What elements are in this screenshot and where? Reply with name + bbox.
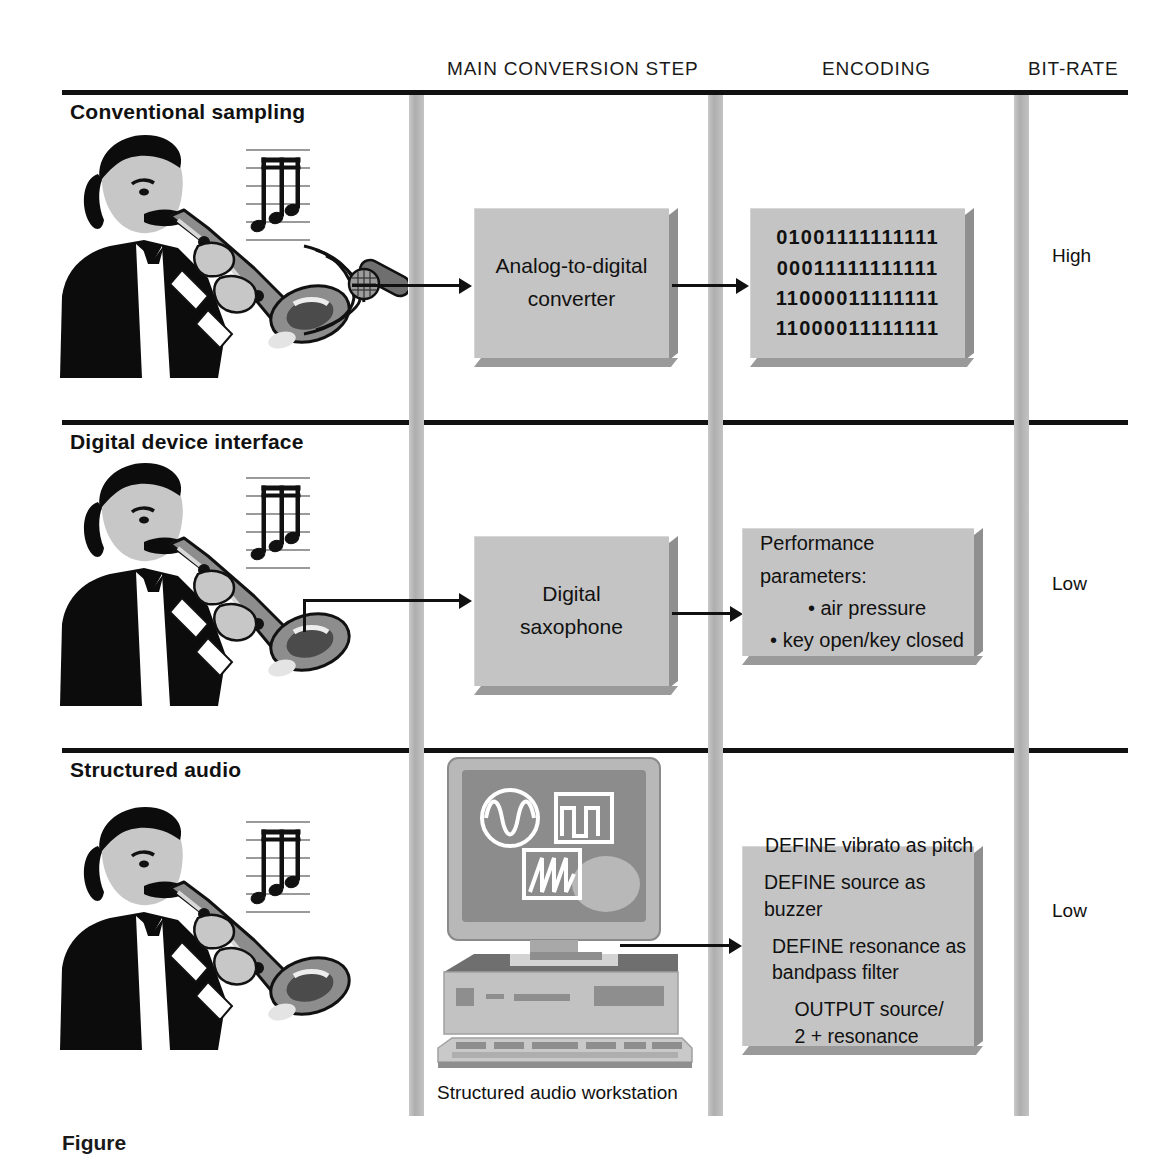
- binary-line: 00011111111111: [777, 253, 939, 283]
- box-line: converter: [528, 283, 616, 316]
- code-line: DEFINE source as buzzer: [764, 869, 974, 922]
- box-content: Analog-to-digital converter: [474, 208, 669, 358]
- box-side-shadow: [965, 208, 974, 360]
- arrow-row2-source-to-box: [303, 599, 463, 602]
- row-title-structured-audio: Structured audio: [70, 758, 241, 782]
- column-header-encoding: ENCODING: [822, 58, 931, 80]
- box-content: 01001111111111 00011111111111 1100001111…: [750, 208, 965, 358]
- box-line: Analog-to-digital: [496, 250, 648, 283]
- box-performance-parameters: Performance parameters: • air pressure •…: [742, 528, 974, 656]
- arrow-row1-box-to-encoding: [672, 284, 739, 287]
- arrow-row2-box-to-encoding: [672, 612, 734, 615]
- arrow-head-row2-source-to-box: [459, 593, 472, 609]
- box-digital-saxophone: Digital saxophone: [474, 536, 669, 686]
- parameter-label: key open/key closed: [783, 629, 964, 651]
- row-title-digital-device-interface: Digital device interface: [70, 430, 304, 454]
- column-separator-3: [1014, 95, 1029, 1116]
- workstation-caption: Structured audio workstation: [437, 1082, 678, 1104]
- box-content: DEFINE vibrato as pitch DEFINE source as…: [742, 846, 974, 1046]
- code-line: DEFINE resonance as bandpass filter: [772, 933, 966, 986]
- parameter-item: • air pressure: [808, 592, 926, 624]
- saxophonist-illustration: [58, 800, 408, 1050]
- code-line: DEFINE vibrato as pitch: [765, 832, 973, 858]
- saxophonist-with-microphone-illustration: [58, 128, 408, 378]
- figure-caption: Figure: [62, 1131, 126, 1155]
- column-header-main-conversion-step: MAIN CONVERSION STEP: [447, 58, 698, 80]
- box-content: Performance parameters: • air pressure •…: [742, 528, 974, 656]
- divider-top: [62, 90, 1128, 95]
- figure-caption-label: Figure: [62, 1131, 126, 1154]
- column-separator-2: [708, 95, 723, 1116]
- arrow-row3-box-to-encoding: [620, 944, 732, 947]
- column-separator-1: [409, 95, 424, 1116]
- box-bottom-shadow: [474, 358, 678, 367]
- bit-rate-value-row-2: Low: [1052, 573, 1087, 595]
- code-line: OUTPUT source/ 2 + resonance: [794, 996, 943, 1049]
- bullet-icon: •: [770, 629, 777, 651]
- box-line: Digital: [542, 578, 600, 611]
- bit-rate-value-row-3: Low: [1052, 900, 1087, 922]
- parameter-label: air pressure: [820, 597, 926, 619]
- arrow-head-row3-box-to-encoding: [729, 938, 742, 954]
- binary-line: 11000011111111: [776, 313, 940, 343]
- box-analog-to-digital-converter: Analog-to-digital converter: [474, 208, 669, 358]
- column-header-bit-rate: BIT-RATE: [1028, 58, 1119, 80]
- box-side-shadow: [974, 528, 983, 658]
- bit-rate-value-row-1: High: [1052, 245, 1091, 267]
- cable-row2-vertical: [303, 600, 306, 632]
- divider-row-1: [62, 420, 1128, 425]
- box-line: saxophone: [520, 611, 623, 644]
- binary-line: 11000011111111: [776, 283, 940, 313]
- row-title-conventional-sampling: Conventional sampling: [70, 100, 305, 124]
- box-side-shadow: [974, 846, 983, 1048]
- arrow-head-row1-box-to-encoding: [736, 278, 749, 294]
- bullet-icon: •: [808, 597, 815, 619]
- binary-line: 01001111111111: [776, 222, 939, 252]
- box-binary-encoding: 01001111111111 00011111111111 1100001111…: [750, 208, 965, 358]
- arrow-head-row1-source-to-box: [459, 278, 472, 294]
- box-bottom-shadow: [474, 686, 678, 695]
- parameter-item: • key open/key closed: [770, 624, 964, 656]
- box-structured-audio-code: DEFINE vibrato as pitch DEFINE source as…: [742, 846, 974, 1046]
- parameters-heading: Performance parameters:: [760, 527, 974, 592]
- box-bottom-shadow: [750, 358, 974, 367]
- divider-row-2: [62, 748, 1128, 753]
- box-bottom-shadow: [742, 656, 983, 665]
- structured-audio-workstation-illustration: [430, 756, 696, 1086]
- saxophonist-with-cable-illustration: [58, 456, 408, 706]
- box-content: Digital saxophone: [474, 536, 669, 686]
- arrow-row1-source-to-box: [352, 284, 462, 287]
